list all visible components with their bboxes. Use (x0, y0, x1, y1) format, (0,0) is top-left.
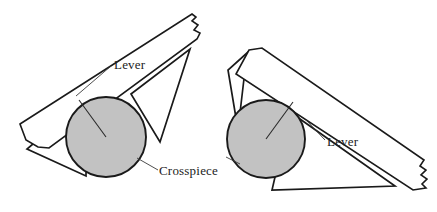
left-assembly: Lever Crosspiece (20, 14, 218, 178)
label-lever-right: Lever (327, 134, 359, 149)
right-assembly: Lever (226, 48, 427, 190)
label-crosspiece: Crosspiece (159, 163, 218, 178)
label-lever-left: Lever (114, 57, 146, 72)
left-crosspiece-leader-line (137, 158, 158, 170)
figure-canvas: Lever Crosspiece Lever (0, 0, 437, 212)
lever-crosspiece-diagram: Lever Crosspiece Lever (0, 0, 437, 212)
